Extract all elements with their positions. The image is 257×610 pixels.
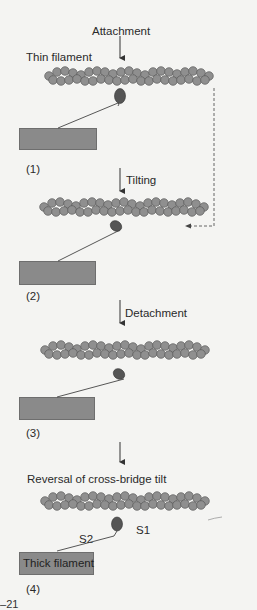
myosin-neck-1 [58, 103, 118, 128]
myosin-neck-2 [58, 230, 120, 261]
thin-filament-1 [45, 67, 214, 86]
myosin-neck-4 [57, 531, 117, 551]
myosin-head-2 [108, 218, 124, 233]
thin-filament-2 [40, 198, 209, 217]
myosin-head-3 [111, 366, 127, 381]
thin-filament-3 [41, 341, 210, 360]
myosin-neck-3 [57, 379, 124, 397]
myosin-head-4 [112, 517, 123, 531]
myosin-head-1 [115, 89, 126, 104]
thin-filament-4 [41, 492, 210, 511]
